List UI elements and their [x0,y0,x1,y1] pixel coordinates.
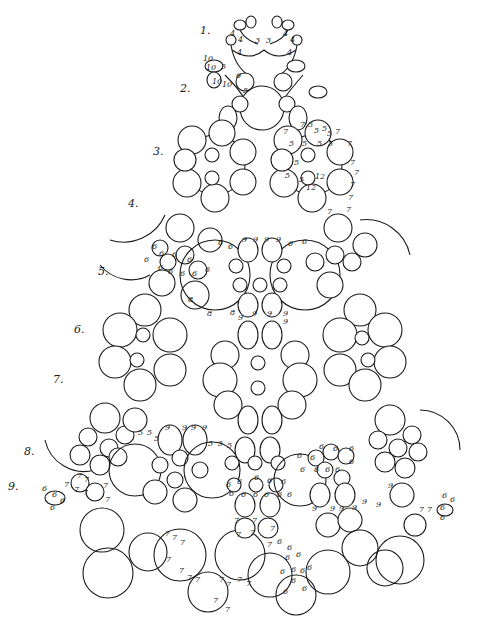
stitch-count: 5 [221,62,226,71]
stitch-count: 12 [306,183,316,192]
stitch-count: 6 [287,543,292,552]
stitch-count: 6 [60,496,65,505]
stitch-count: 6 [333,444,338,453]
stitch-count: 4 [229,29,235,38]
stitch-count: 8 [230,308,235,317]
stitch-count: 7 [252,516,258,525]
stitch-count: 9 [253,235,258,244]
stitch-count: 9 [191,423,196,432]
stitch-count: 7 [348,193,354,202]
stitch-count: 6 [236,71,241,80]
stitch-count: 7 [335,127,341,136]
stitch-count: 6 [319,442,324,451]
stitch-count: 7 [172,533,178,542]
stitch-count: 6 [277,537,282,546]
round-label: 4. [127,197,139,210]
stitch-count: 6 [335,465,340,474]
stitch-count: 7 [327,207,333,216]
stitch-count: 5 [147,428,152,437]
stitch-count: 9 [264,235,269,244]
stitch-count: 5 [294,158,299,167]
stitch-count: 6 [285,553,290,562]
stitch-count: 9 [242,235,247,244]
stitch-count: 9 [238,313,243,322]
stitch-count: 6 [180,269,185,278]
stitch-count: 9 [330,504,335,513]
stitch-count: 5 [327,129,332,138]
stitch-count: 6 [172,250,177,259]
round-6-center-flower [203,321,317,434]
stitch-count: 5 [302,139,307,148]
stitch-count: 6 [50,503,55,512]
stitch-count: 5 [314,126,319,135]
stitch-count: 6 [187,255,192,264]
stitch-count: 5 [317,139,322,148]
stitch-count: 5 [299,175,304,184]
stitch-count: 5 [285,171,290,180]
round-4-5-left-cluster [100,214,222,309]
stitch-count: 3 [266,36,271,45]
stitch-count: 10 [222,80,232,89]
stitch-count: 3 [255,36,260,45]
stitch-count: 9 [165,423,170,432]
round-label: 8. [24,445,35,458]
round-8-center-left-cluster [143,425,208,512]
stitch-count: 10 [206,63,216,72]
stitch-count: 9 [267,309,272,318]
stitch-count: 6 [228,242,233,251]
stitch-count: 9 [182,423,187,432]
stitch-count: 4 [282,29,288,38]
stitch-count: 6 [325,465,330,474]
stitch-count: 4 [237,35,243,44]
round-6-right-flower [323,294,406,401]
stitch-count: 7 [195,575,201,584]
stitch-count: 9 [352,503,357,512]
stitch-count: 6 [144,255,149,264]
stitch-count: 5 [154,434,159,443]
stitch-count: 7 [103,481,109,490]
stitch-count: 10 [212,77,222,86]
round-6-left-flower [99,294,187,401]
diagram-svg: 1.2.3.4.5.6.7.8.9. 443344441010510106575… [0,0,477,629]
stitch-count: 6 [52,490,57,499]
round-4-5-right-cluster [306,214,410,298]
stitch-count: 6 [300,566,305,575]
stitch-count: 7 [350,180,356,189]
stitch-count: 9 [312,504,317,513]
round-label: 6. [74,323,85,336]
stitch-count: 7 [350,158,356,167]
stitch-count: 9 [202,423,207,432]
stitch-count: 5 [289,139,294,148]
stitch-count: 6 [302,237,307,246]
stitch-count: 4 [236,48,242,57]
stitch-count: 6 [192,269,197,278]
stitch-count: 9 [362,497,367,506]
stitch-count: 7 [166,555,172,564]
round-label: 7. [53,373,64,386]
stitch-count: 6 [442,491,447,500]
stitch-count: 4 [289,35,295,44]
stitch-count: 8 [188,295,193,304]
stitch-count: 6 [307,563,312,572]
stitch-count: 6 [264,490,269,499]
stitch-count: 6 [254,473,259,482]
stitch-count: 6 [168,267,173,276]
stitch-count: 9 [283,317,288,326]
stitch-count: 6 [314,465,319,474]
stitch-count: 9 [252,309,257,318]
stitch-count: 7 [267,540,273,549]
stitch-count: 5 [218,439,223,448]
stitch-count: 6 [205,265,210,274]
stitch-count: 6 [237,477,242,486]
stitch-count: 6 [440,513,445,522]
stitch-count: 6 [253,490,258,499]
stitch-count: 9 [276,235,281,244]
stitch-count: 6 [349,457,354,466]
stitch-count: 7 [165,529,171,538]
stitch-count: 7 [225,605,231,614]
stitch-count: 6 [283,587,288,596]
stitch-count: 6 [277,490,282,499]
stitch-count: 7 [105,495,111,504]
stitch-count: 6 [42,484,47,493]
round-label: 9. [8,480,19,493]
